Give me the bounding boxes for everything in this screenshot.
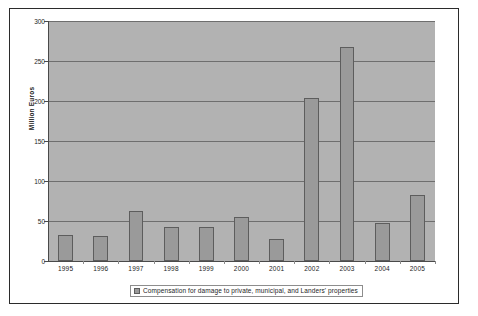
x-tick-mark-4 <box>224 261 225 264</box>
gridline-200 <box>48 101 435 102</box>
gridline-300 <box>48 21 435 22</box>
x-tick-mark-5 <box>259 261 260 264</box>
y-tick-mark-0 <box>44 261 48 262</box>
x-tick-mark-1 <box>118 261 119 264</box>
x-tick-mark-3 <box>189 261 190 264</box>
bar-1999 <box>199 227 214 261</box>
y-tick-mark-300 <box>44 21 48 22</box>
y-tick-mark-250 <box>44 61 48 62</box>
x-tick-label-2005: 2005 <box>400 265 435 272</box>
bar-1997 <box>129 211 144 261</box>
bar-2002 <box>304 98 319 261</box>
x-tick-label-1997: 1997 <box>118 265 153 272</box>
y-tick-label-250: 250 <box>14 58 45 65</box>
x-tick-mark-8 <box>365 261 366 264</box>
x-tick-label-1995: 1995 <box>48 265 83 272</box>
bar-1998 <box>164 227 179 261</box>
bar-2001 <box>269 239 284 261</box>
y-tick-mark-100 <box>44 181 48 182</box>
chart-legend: Compensation for damage to private, muni… <box>130 285 363 297</box>
x-tick-label-2004: 2004 <box>365 265 400 272</box>
x-tick-label-1999: 1999 <box>189 265 224 272</box>
x-axis-ticks: 1995199619971998199920002001200220032004… <box>48 265 436 279</box>
x-tick-label-2000: 2000 <box>224 265 259 272</box>
gridline-250 <box>48 61 435 62</box>
y-tick-mark-200 <box>44 101 48 102</box>
y-tick-mark-150 <box>44 141 48 142</box>
y-tick-mark-50 <box>44 221 48 222</box>
y-tick-label-100: 100 <box>14 178 45 185</box>
x-axis-line <box>48 261 436 262</box>
x-tick-mark-10 <box>435 261 436 264</box>
x-tick-label-2002: 2002 <box>294 265 329 272</box>
x-tick-mark-6 <box>294 261 295 264</box>
y-tick-label-200: 200 <box>14 98 45 105</box>
y-tick-label-0: 0 <box>14 258 45 265</box>
chart-figure: Million Euros 050100150200250300 1995199… <box>0 0 478 316</box>
bar-2004 <box>375 223 390 261</box>
y-axis-line <box>48 21 49 262</box>
gridline-150 <box>48 141 435 142</box>
y-axis-title: Million Euros <box>28 74 35 144</box>
x-tick-mark-0 <box>83 261 84 264</box>
y-tick-label-50: 50 <box>14 218 45 225</box>
chart-plot-container: Million Euros 050100150200250300 1995199… <box>10 9 458 303</box>
bar-2003 <box>340 47 355 261</box>
gridline-100 <box>48 181 435 182</box>
x-tick-label-2003: 2003 <box>329 265 364 272</box>
bar-2000 <box>234 217 249 261</box>
x-tick-label-1996: 1996 <box>83 265 118 272</box>
bar-1996 <box>93 236 108 261</box>
x-tick-mark-7 <box>329 261 330 264</box>
bar-2005 <box>410 195 425 261</box>
x-tick-label-1998: 1998 <box>154 265 189 272</box>
chart-frame: Million Euros 050100150200250300 1995199… <box>9 8 459 304</box>
bar-1995 <box>58 235 73 261</box>
x-tick-mark-9 <box>400 261 401 264</box>
x-tick-mark-2 <box>154 261 155 264</box>
y-tick-label-300: 300 <box>14 18 45 25</box>
legend-swatch-icon <box>134 288 140 294</box>
legend-label: Compensation for damage to private, muni… <box>143 287 358 295</box>
x-tick-label-2001: 2001 <box>259 265 294 272</box>
y-tick-label-150: 150 <box>14 138 45 145</box>
